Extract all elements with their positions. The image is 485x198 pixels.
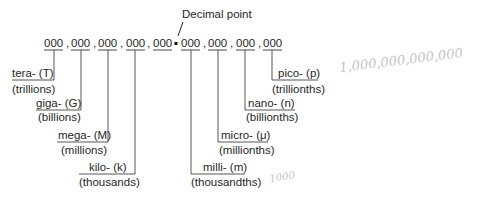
handwritten-thousand: 1000 [269, 169, 296, 184]
group-8: 000 [236, 37, 255, 49]
decimal-point-pointer [178, 22, 183, 36]
group-6: 000 [181, 37, 200, 49]
pico-label: pico- (p) [278, 67, 320, 79]
giga-meaning: (billions) [38, 111, 81, 123]
comma: , [66, 37, 69, 49]
tera-label: tera- (T) [12, 67, 54, 79]
nano-meaning: (billionths) [246, 111, 299, 123]
metric-prefix-diagram: Decimal point 000 , 000 , 000 , 000 , 00… [0, 0, 485, 198]
pico-meaning: (trillionths) [272, 83, 325, 95]
mega-meaning: (millions) [61, 144, 107, 156]
milli-meaning: (thousandths) [191, 176, 261, 188]
giga-label: giga- (G) [36, 97, 82, 109]
kilo-meaning: (thousands) [79, 176, 140, 188]
handwritten-trillion: 1,000,000,000,000 [339, 45, 464, 75]
group-5: 000 [153, 37, 172, 49]
group-2: 000 [71, 37, 90, 49]
kilo-label: kilo- (k) [89, 161, 127, 173]
micro-label: micro- (μ) [221, 129, 271, 141]
tera-meaning: (trillions) [12, 83, 56, 95]
group-7: 000 [208, 37, 227, 49]
number-groups: 000 , 000 , 000 , 000 , 000 000 , 000 , … [44, 37, 282, 49]
micro-meaning: (millionths) [219, 144, 275, 156]
group-3: 000 [98, 37, 117, 49]
comma: , [230, 37, 233, 49]
comma: , [147, 37, 150, 49]
group-1: 000 [44, 37, 63, 49]
group-9: 000 [263, 37, 282, 49]
milli-label: milli- (m) [203, 161, 247, 173]
nano-label: nano- (n) [248, 97, 295, 109]
decimal-point-label: Decimal point [182, 8, 252, 20]
comma: , [93, 37, 96, 49]
comma: , [203, 37, 206, 49]
decimal-point-dot [175, 42, 178, 45]
group-4: 000 [126, 37, 145, 49]
comma: , [120, 37, 123, 49]
mega-label: mega- (M) [58, 129, 111, 141]
comma: , [258, 37, 261, 49]
